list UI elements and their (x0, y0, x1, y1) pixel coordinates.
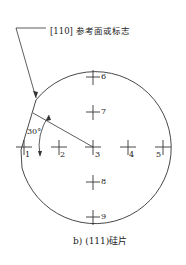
point-label-8: 8 (101, 178, 106, 186)
point-label-2: 2 (60, 151, 65, 159)
point-label-6: 6 (101, 73, 106, 81)
figure-caption: b) (111)硅片 (73, 234, 127, 247)
leader-line (16, 28, 46, 98)
point-label-3: 3 (95, 151, 100, 159)
point-label-5: 5 (156, 151, 161, 159)
point-label-7: 7 (101, 108, 106, 116)
wafer-outline (21, 72, 171, 224)
reference-flat-label: [110] 参考面或标志 (50, 24, 130, 36)
point-label-1: 1 (25, 151, 30, 159)
point-label-4: 4 (129, 151, 134, 159)
angle-label: 30° (27, 127, 41, 136)
point-label-9: 9 (101, 213, 106, 221)
